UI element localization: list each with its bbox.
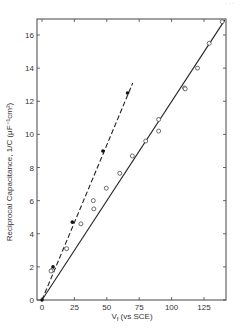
x-axis-label: Vf (vs SCE) bbox=[111, 312, 153, 322]
y-tick-label: 8 bbox=[30, 164, 35, 173]
open-data-point bbox=[91, 199, 95, 203]
x-tick-label: 100 bbox=[165, 303, 179, 312]
open-data-point bbox=[157, 117, 161, 121]
open-data-point bbox=[65, 247, 69, 251]
open-data-point bbox=[144, 139, 148, 143]
y-tick-label: 10 bbox=[25, 130, 34, 139]
y-tick-label: 14 bbox=[25, 64, 34, 73]
x-tick-label: 25 bbox=[70, 303, 79, 312]
open-data-point bbox=[92, 207, 96, 211]
filled-data-point bbox=[71, 220, 75, 224]
open-data-point bbox=[104, 186, 108, 190]
filled-data-point bbox=[126, 91, 130, 95]
chart: 02550751001250246810121416 Vf (vs SCE) R… bbox=[0, 0, 240, 336]
dashed-fit-line bbox=[42, 83, 133, 300]
y-tick-label: 6 bbox=[30, 197, 35, 206]
y-tick-label: 12 bbox=[25, 97, 34, 106]
open-data-point bbox=[79, 222, 83, 226]
fit-lines bbox=[42, 20, 225, 300]
y-axis-label: Reciprocal Capacitance, 1/C (μF⁻¹cm²) bbox=[5, 102, 14, 241]
open-data-point bbox=[49, 269, 53, 273]
y-tick-label: 2 bbox=[30, 263, 35, 272]
x-tick-label: 125 bbox=[197, 303, 211, 312]
y-tick-label: 0 bbox=[30, 296, 35, 305]
open-data-point bbox=[118, 171, 122, 175]
y-tick-label: 4 bbox=[30, 230, 35, 239]
open-data-point bbox=[130, 154, 134, 158]
open-data-point bbox=[183, 87, 187, 91]
solid-fit-line bbox=[42, 20, 225, 300]
filled-data-point bbox=[101, 149, 105, 153]
open-data-point bbox=[196, 66, 200, 70]
x-tick-label: 0 bbox=[40, 303, 45, 312]
filled-data-point bbox=[40, 298, 44, 302]
open-data-point bbox=[220, 20, 224, 24]
x-tick-label: 50 bbox=[102, 303, 111, 312]
open-data-point bbox=[207, 41, 211, 45]
x-tick-label: 75 bbox=[135, 303, 144, 312]
open-data-point bbox=[157, 129, 161, 133]
y-tick-label: 16 bbox=[25, 31, 34, 40]
